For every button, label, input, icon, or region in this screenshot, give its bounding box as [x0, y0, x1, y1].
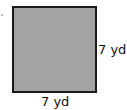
stray-mark — [1, 14, 3, 16]
square-shape — [12, 6, 97, 93]
bottom-side-length-label: 7 yd — [41, 95, 69, 108]
right-side-length-label: 7 yd — [98, 43, 126, 56]
